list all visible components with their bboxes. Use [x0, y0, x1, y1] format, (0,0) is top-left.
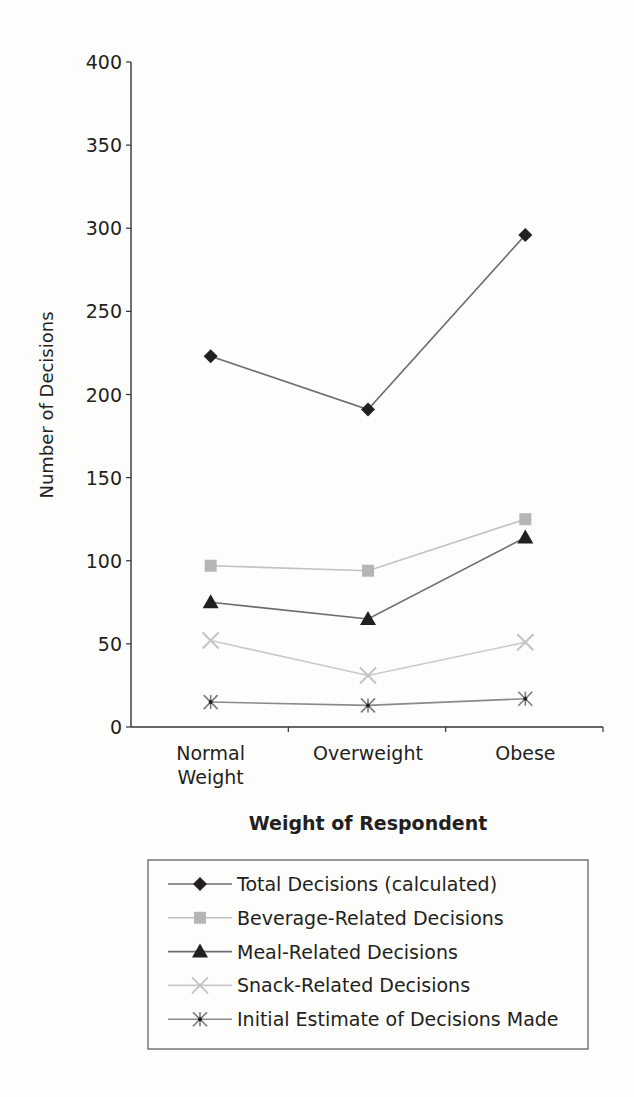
triangle-marker-icon — [203, 594, 219, 608]
series-line — [211, 537, 526, 618]
legend-item: Snack-Related Decisions — [168, 974, 470, 996]
x-marker-icon — [360, 667, 376, 683]
y-tick-label: 0 — [110, 716, 122, 738]
y-tick-label: 400 — [86, 51, 122, 73]
legend-label: Beverage-Related Decisions — [237, 907, 504, 929]
legend-label: Meal-Related Decisions — [237, 941, 458, 963]
x-category-label: Overweight — [313, 742, 423, 764]
series-line — [211, 519, 526, 571]
series-1 — [205, 513, 532, 577]
diamond-marker-icon — [204, 349, 218, 363]
chart-canvas: 050100150200250300350400 NormalWeightOve… — [0, 0, 634, 1097]
x-category-label: Obese — [495, 742, 555, 764]
y-tick-label: 100 — [86, 550, 122, 572]
legend-item: Total Decisions (calculated) — [168, 873, 497, 895]
diamond-marker-icon — [193, 877, 207, 891]
line-chart: 050100150200250300350400 NormalWeightOve… — [0, 0, 634, 1097]
series-2 — [203, 529, 534, 624]
y-tick-label: 200 — [86, 384, 122, 406]
legend-item: Meal-Related Decisions — [168, 941, 458, 963]
square-marker-icon — [194, 912, 206, 924]
series-0 — [204, 228, 533, 417]
triangle-marker-icon — [192, 944, 208, 958]
series-line — [211, 235, 526, 410]
y-tick-label: 50 — [98, 633, 122, 655]
y-tick-label: 350 — [86, 134, 122, 156]
x-category-label: Normal — [176, 742, 245, 764]
square-marker-icon — [362, 565, 374, 577]
square-marker-icon — [519, 513, 531, 525]
square-marker-icon — [205, 560, 217, 572]
y-tick-label: 150 — [86, 467, 122, 489]
legend: Total Decisions (calculated)Beverage-Rel… — [148, 860, 588, 1049]
series-4 — [204, 692, 533, 713]
series-line — [211, 641, 526, 676]
x-marker-icon — [517, 634, 533, 650]
legend-item: Beverage-Related Decisions — [168, 907, 504, 929]
triangle-marker-icon — [517, 529, 533, 543]
x-marker-icon — [203, 633, 219, 649]
legend-label: Initial Estimate of Decisions Made — [237, 1008, 559, 1030]
y-axis: 050100150200250300350400 — [86, 51, 131, 738]
legend-item: Initial Estimate of Decisions Made — [168, 1008, 559, 1030]
y-tick-label: 300 — [86, 217, 122, 239]
legend-label: Total Decisions (calculated) — [236, 873, 497, 895]
legend-label: Snack-Related Decisions — [237, 974, 470, 996]
series-3 — [203, 633, 534, 684]
x-category-label: Weight — [178, 766, 244, 788]
y-axis-title: Number of Decisions — [36, 311, 57, 498]
y-tick-label: 250 — [86, 300, 122, 322]
x-axis-title: Weight of Respondent — [249, 812, 488, 834]
x-axis: NormalWeightOverweightObese — [131, 727, 603, 788]
series-layer — [203, 228, 534, 712]
